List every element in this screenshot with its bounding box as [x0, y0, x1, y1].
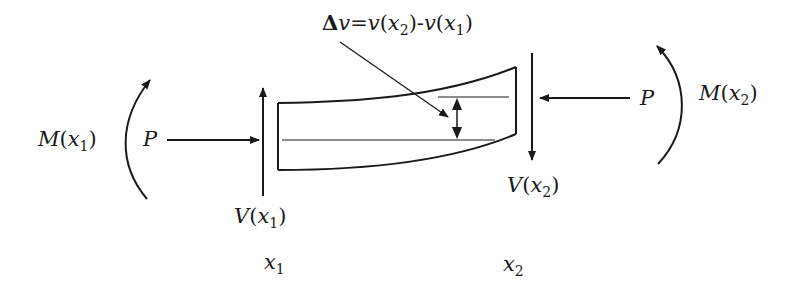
- delta-v-dimension-arrow: [452, 98, 462, 139]
- left-moment-label: M(x1): [37, 127, 97, 154]
- x2-position-label: x2: [503, 252, 524, 279]
- beam-segment: [278, 67, 516, 170]
- right-shear-label: V(x2): [507, 173, 559, 200]
- x1-position-label: x1: [264, 250, 285, 277]
- beam-diagram: Δv=v(x2)-v(x1) M(x1) P V(x1) x1 V(x2) P …: [0, 0, 797, 289]
- right-moment-arrow-icon: [657, 46, 682, 164]
- right-moment-label: M(x2): [698, 81, 758, 108]
- arrow-down-icon: [452, 127, 462, 139]
- arrow-up-icon: [452, 98, 462, 110]
- left-axial-force-label: P: [142, 127, 158, 151]
- right-axial-force-label: P: [639, 86, 655, 110]
- left-shear-label: V(x1): [234, 204, 286, 231]
- annotation-leader-arrow: [340, 42, 448, 117]
- delta-v-equation: Δv=v(x2)-v(x1): [322, 10, 473, 38]
